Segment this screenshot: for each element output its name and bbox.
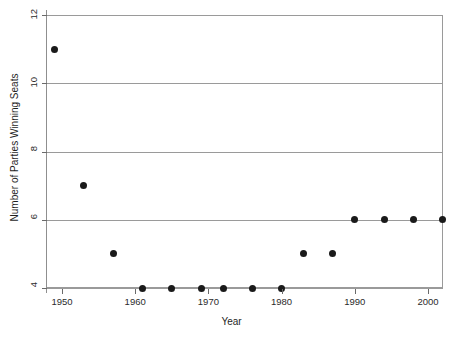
x-tick-label: 1980 bbox=[262, 296, 302, 307]
y-tick-mark bbox=[42, 83, 47, 84]
x-tick-mark-1950 bbox=[62, 289, 63, 294]
data-point bbox=[110, 250, 117, 257]
data-point bbox=[300, 250, 307, 257]
plot-area bbox=[47, 15, 443, 288]
y-tick-mark bbox=[42, 220, 47, 221]
data-point bbox=[410, 216, 417, 223]
y-tick-label: 12 bbox=[28, 9, 42, 20]
data-point bbox=[381, 216, 388, 223]
gridline-y-4 bbox=[47, 288, 443, 289]
data-point bbox=[220, 285, 227, 292]
y-axis-title: Number of Parties Winning Seats bbox=[9, 48, 20, 248]
x-tick-label: 1990 bbox=[335, 296, 375, 307]
gridline-y-12 bbox=[47, 15, 443, 16]
gridline-y-8 bbox=[47, 152, 443, 153]
chart-container: 4681012 195019601970198019902000 Year Nu… bbox=[0, 0, 463, 337]
y-tick-label: 10 bbox=[28, 77, 42, 88]
data-point bbox=[249, 285, 256, 292]
y-tick-label: 8 bbox=[28, 146, 42, 151]
y-tick-mark bbox=[42, 288, 47, 289]
y-tick-label: 6 bbox=[28, 214, 42, 219]
y-tick-mark bbox=[42, 15, 47, 16]
y-tick-label: 4 bbox=[28, 282, 42, 287]
x-tick-label: 1970 bbox=[188, 296, 228, 307]
data-point bbox=[329, 250, 336, 257]
data-point bbox=[198, 285, 205, 292]
data-point bbox=[168, 285, 175, 292]
gridline-y-10 bbox=[47, 83, 443, 84]
x-axis-title: Year bbox=[0, 316, 463, 327]
data-point bbox=[80, 182, 87, 189]
data-point bbox=[139, 285, 146, 292]
data-point bbox=[51, 46, 58, 53]
x-tick-label: 2000 bbox=[408, 296, 448, 307]
y-tick-mark bbox=[42, 152, 47, 153]
x-tick-label: 1950 bbox=[42, 296, 82, 307]
x-tick-mark-1960 bbox=[135, 289, 136, 294]
data-point bbox=[439, 216, 446, 223]
x-tick-mark-1970 bbox=[208, 289, 209, 294]
x-tick-mark-1990 bbox=[355, 289, 356, 294]
data-point bbox=[351, 216, 358, 223]
x-tick-mark-2000 bbox=[428, 289, 429, 294]
x-tick-mark-1980 bbox=[282, 289, 283, 294]
x-tick-label: 1960 bbox=[115, 296, 155, 307]
